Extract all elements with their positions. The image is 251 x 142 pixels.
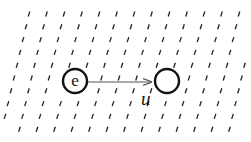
field-dash (144, 114, 146, 119)
field-dash (60, 24, 62, 29)
field-dash (121, 63, 123, 68)
field-dash (45, 88, 47, 93)
field-dash (223, 76, 225, 81)
field-dash (109, 114, 111, 119)
field-dash (110, 37, 112, 42)
field-dash (124, 50, 126, 55)
field-dash (156, 63, 158, 68)
field-dashes (4, 12, 245, 132)
target-circle (155, 69, 179, 93)
field-dash (92, 114, 94, 119)
field-dash (34, 63, 36, 68)
field-dash (39, 114, 41, 119)
field-dash (10, 88, 12, 93)
field-dash (235, 24, 237, 29)
field-dash (74, 114, 76, 119)
field-dash (218, 24, 220, 29)
field-dash (186, 12, 188, 17)
field-dash (221, 12, 223, 17)
field-dash (145, 37, 147, 42)
field-dash (174, 63, 176, 68)
field-dash (194, 127, 196, 132)
field-dash (200, 24, 202, 29)
field-dash (159, 50, 161, 55)
field-dash (31, 76, 33, 81)
field-dash (179, 114, 181, 119)
field-dash (185, 88, 187, 93)
field-dash (182, 101, 184, 106)
field-dash (176, 127, 178, 132)
field-dash (214, 114, 216, 119)
field-dash (217, 101, 219, 106)
field-dash (220, 88, 222, 93)
field-dash (43, 24, 45, 29)
field-dash (46, 12, 48, 17)
field-dash (180, 37, 182, 42)
field-dash (28, 12, 30, 17)
field-dash (36, 127, 38, 132)
field-dash (106, 127, 108, 132)
field-dash (69, 63, 71, 68)
field-dash (71, 127, 73, 132)
field-dash (232, 114, 234, 119)
field-dash (98, 12, 100, 17)
field-dash (48, 76, 50, 81)
field-dash (92, 37, 94, 42)
particle-e: e (63, 69, 87, 93)
field-dash (19, 50, 21, 55)
field-dash (124, 127, 126, 132)
field-dash (104, 63, 106, 68)
field-dash (112, 101, 114, 106)
field-dash (98, 88, 100, 93)
field-dash (197, 37, 199, 42)
field-dash (118, 76, 120, 81)
field-dash (25, 24, 27, 29)
field-dash (162, 37, 164, 42)
field-dash (60, 101, 62, 106)
field-dash (238, 12, 240, 17)
field-dash (4, 114, 6, 119)
field-dash (148, 24, 150, 29)
field-dash (42, 101, 44, 106)
field-dash (22, 37, 24, 42)
field-dash (232, 37, 234, 42)
field-dash (206, 76, 208, 81)
field-dash (133, 12, 135, 17)
field-dash (241, 76, 243, 81)
field-dash (101, 76, 103, 81)
field-dash (142, 50, 144, 55)
field-dash (209, 63, 211, 68)
field-dash (197, 114, 199, 119)
field-dash (57, 114, 59, 119)
field-dash (63, 12, 65, 17)
field-dash (194, 50, 196, 55)
field-dash (89, 127, 91, 132)
field-dash (165, 24, 167, 29)
field-dash (188, 76, 190, 81)
particle-label: e (71, 71, 79, 90)
field-dash (57, 37, 59, 42)
field-dash (244, 63, 246, 68)
field-dash (28, 88, 30, 93)
field-dash (139, 63, 141, 68)
field-dash (141, 127, 143, 132)
field-dash (229, 50, 231, 55)
field-dash (165, 101, 167, 106)
field-dash (54, 127, 56, 132)
field-dash (16, 63, 18, 68)
field-dash (54, 50, 56, 55)
field-dash (7, 101, 9, 106)
diagram-canvas: e u (0, 0, 251, 142)
field-dash (203, 88, 205, 93)
field-dash (78, 24, 80, 29)
field-dash (72, 50, 74, 55)
field-dash (86, 63, 88, 68)
field-dash (130, 24, 132, 29)
field-dash (215, 37, 217, 42)
field-dash (226, 63, 228, 68)
field-dash (25, 101, 27, 106)
field-dash (89, 50, 91, 55)
field-dash (238, 88, 240, 93)
field-dash (127, 37, 129, 42)
field-dash (130, 101, 132, 106)
